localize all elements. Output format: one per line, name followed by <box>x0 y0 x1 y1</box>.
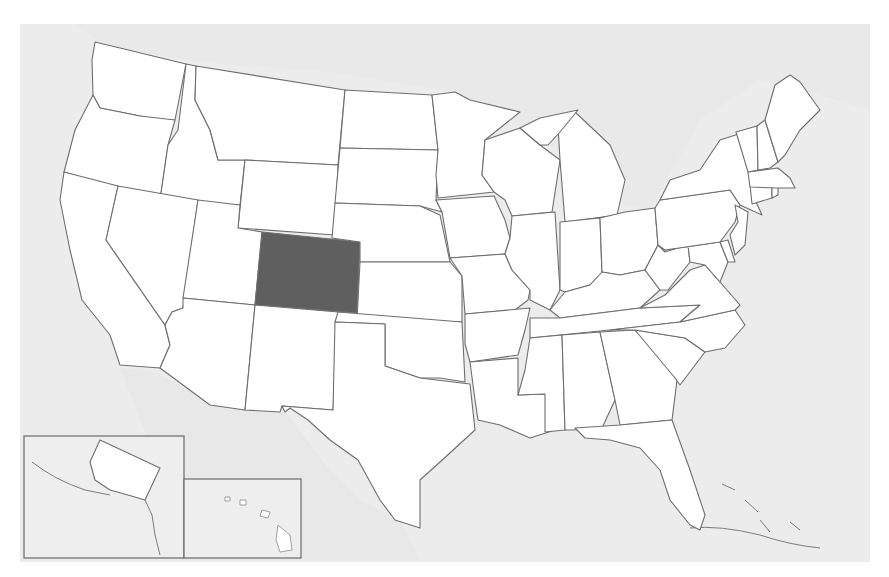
state-new-mexico[interactable] <box>245 305 338 412</box>
state-wyoming[interactable] <box>238 160 338 235</box>
state-south-dakota[interactable] <box>335 148 442 212</box>
us-map <box>0 0 889 577</box>
state-colorado[interactable] <box>255 232 360 313</box>
hawaii-kauai <box>225 497 230 501</box>
state-north-dakota[interactable] <box>340 90 438 150</box>
state-kansas[interactable] <box>357 262 462 322</box>
hawaii-oahu <box>240 500 246 505</box>
